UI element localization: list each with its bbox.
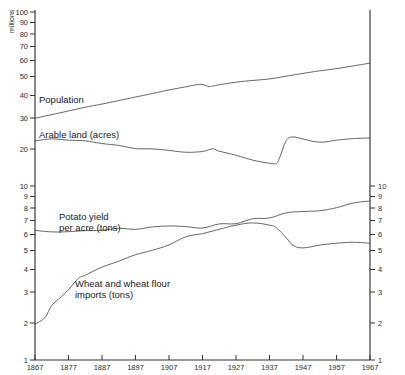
y-tick-label-left: 4 [24,265,28,274]
log-scale-timeseries-chart: millions 100908070605040302010987654321 … [0,0,405,375]
chart-background [0,0,405,375]
y-tick-label-left: 30 [20,114,28,123]
y-tick-label-right: 5 [378,246,382,255]
wheat-imports-label-line2: imports (tons) [75,289,133,300]
x-tick-label: 1927 [228,363,245,372]
y-tick-label-left: 5 [24,246,28,255]
y-tick-label-left: 90 [20,18,28,27]
y-tick-label-left: 60 [20,56,28,65]
y-tick-label-right: 2 [378,319,382,328]
x-tick-label: 1897 [127,363,144,372]
x-tick-label: 1967 [362,363,379,372]
y-tick-label-right: 7 [378,216,382,225]
y-tick-label-left: 6 [24,230,28,239]
x-tick-label: 1917 [194,363,211,372]
x-tick-label: 1937 [261,363,278,372]
y-tick-label-left: 7 [24,216,28,225]
x-tick-label: 1907 [161,363,178,372]
x-tick-label: 1877 [60,363,77,372]
y-tick-label-right: 4 [378,265,382,274]
y-tick-label-right: 9 [378,192,382,201]
y-tick-label-right: 8 [378,204,382,213]
y-tick-label-left: 9 [24,192,28,201]
y-tick-label-left: 80 [20,30,28,39]
x-tick-label: 1887 [94,363,111,372]
y-tick-label-left: 2 [24,319,28,328]
potato-yield-label-line1: Potato yield [59,211,109,222]
y-tick-label-left: 8 [24,204,28,213]
chart-container: millions 100908070605040302010987654321 … [0,0,405,375]
wheat-imports-label-line1: Wheat and wheat flour [75,278,170,289]
y-tick-label-left: 100 [15,8,28,17]
x-tick-label: 1867 [27,363,44,372]
y-tick-label-right: 6 [378,230,382,239]
y-tick-label-left: 40 [20,91,28,100]
y-tick-label-right: 1 [378,356,382,365]
arable-land-label: Arable land (acres) [39,129,119,140]
y-tick-label-left: 50 [20,72,28,81]
population-label: Population [39,94,84,105]
y-tick-label-right: 10 [378,182,386,191]
x-tick-label: 1957 [328,363,345,372]
y-tick-label-left: 70 [20,42,28,51]
y-tick-label-left: 3 [24,288,28,297]
y-tick-label-left: 20 [20,145,28,154]
potato-yield-label-line2: per acre (tons) [59,222,121,233]
y-axis-unit-label: millions [8,9,15,33]
y-tick-label-right: 3 [378,288,382,297]
y-tick-label-left: 10 [20,182,28,191]
x-tick-label: 1947 [295,363,312,372]
